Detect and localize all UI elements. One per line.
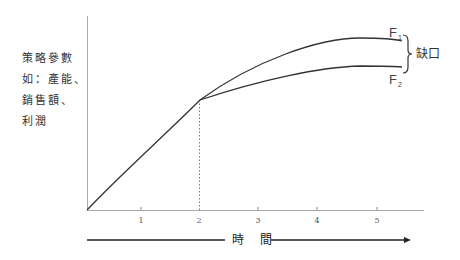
tick-label-4: 4	[314, 216, 319, 225]
shared-curve	[87, 100, 200, 210]
x-ticks	[141, 207, 377, 210]
tick-label-2: 2	[196, 216, 201, 225]
tick-label-3: 3	[255, 216, 260, 225]
tick-label-1: 1	[138, 216, 143, 225]
f2-label: F	[389, 72, 397, 87]
f1-label: F	[389, 25, 397, 40]
gap-brace	[403, 35, 412, 73]
arrow-head-icon	[404, 237, 411, 243]
gap-label: 缺口	[416, 46, 440, 61]
gap-chart: 1 2 3 4 5 F 1 F 2 缺口 時 間	[0, 0, 460, 260]
f1-subscript: 1	[398, 34, 402, 41]
f2-subscript: 2	[398, 81, 402, 88]
tick-label-5: 5	[374, 216, 379, 225]
x-axis-title: 時 間	[232, 233, 278, 247]
f2-curve	[200, 66, 402, 100]
